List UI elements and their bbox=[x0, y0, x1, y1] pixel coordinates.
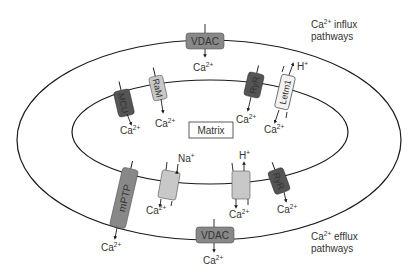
na-label: Na+ bbox=[178, 152, 195, 164]
letm1-channel: Letm1 bbox=[274, 74, 295, 110]
h-exchanger-ca-label: Ca2+ bbox=[229, 208, 249, 220]
mcu-ca-label: Ca2+ bbox=[120, 124, 140, 136]
mcu-channel: MCU bbox=[111, 80, 134, 118]
svg-text:Ca2+ efflux: Ca2+ efflux bbox=[311, 230, 358, 242]
vdac-bottom-channel: VDAC Ca2+ bbox=[196, 219, 234, 266]
ryr-top-ca-label: Ca2+ bbox=[236, 113, 256, 125]
influx-pathways-title: Ca2+ influx pathways bbox=[311, 18, 357, 42]
letm1-h-label: H+ bbox=[297, 60, 308, 72]
svg-text:Ca2+ influx: Ca2+ influx bbox=[311, 18, 357, 30]
matrix-label: Matrix bbox=[189, 122, 233, 138]
mptp-ca-label: Ca2+ bbox=[101, 241, 121, 253]
ram-channel: RaM bbox=[146, 66, 167, 101]
svg-text:VDAC: VDAC bbox=[201, 230, 229, 241]
svg-text:pathways: pathways bbox=[311, 243, 353, 254]
ram-ca-label: Ca2+ bbox=[155, 117, 175, 129]
svg-text:Matrix: Matrix bbox=[197, 125, 224, 136]
na-exchanger-ca-label: Ca2+ bbox=[146, 204, 166, 216]
efflux-pathways-title: Ca2+ efflux pathways bbox=[311, 230, 358, 254]
outer-membrane bbox=[17, 40, 401, 240]
vdac-top-channel: VDAC Ca2+ bbox=[186, 24, 224, 73]
na-ca-exchanger bbox=[158, 162, 181, 206]
svg-text:Ca2+: Ca2+ bbox=[193, 61, 213, 73]
svg-text:Ca2+: Ca2+ bbox=[203, 254, 223, 266]
ryr-bottom-channel: RyR bbox=[265, 159, 291, 195]
h-ca-exchanger bbox=[232, 163, 250, 207]
ryr-top-channel: RyR bbox=[244, 64, 267, 99]
h-label: H+ bbox=[239, 149, 250, 161]
mitochondrial-calcium-pathways-diagram: Matrix Ca2+ influx pathways Ca2+ efflux … bbox=[0, 0, 410, 273]
svg-text:pathways: pathways bbox=[311, 31, 353, 42]
letm1-ca-label: Ca2+ bbox=[264, 123, 284, 135]
svg-text:VDAC: VDAC bbox=[191, 36, 219, 47]
ryr-bottom-ca-label: Ca2+ bbox=[277, 203, 297, 215]
